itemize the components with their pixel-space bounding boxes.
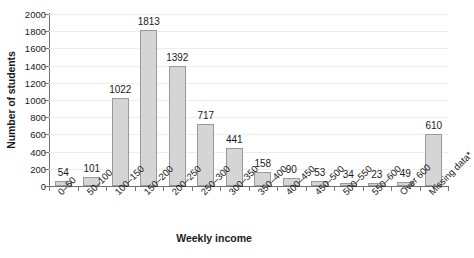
x-axis-title: Weekly income: [49, 232, 379, 244]
bar-series: 541011022181313927174411589053342349610: [49, 14, 448, 186]
bar-value-label: 1022: [100, 85, 140, 95]
bar-value-label: 610: [414, 121, 454, 131]
bar: [112, 98, 129, 186]
bar-value-label: 717: [186, 111, 226, 121]
bar: [140, 30, 157, 186]
y-axis-tick-label: 1400: [22, 61, 46, 70]
bar-value-label: 1392: [157, 53, 197, 63]
y-axis-tick-label: 1200: [22, 78, 46, 87]
plot-area: 541011022181313927174411589053342349610: [49, 14, 448, 186]
y-axis-tick-label: 1600: [22, 44, 46, 53]
y-axis-tick-label: 0: [22, 182, 46, 191]
y-axis-title: Number of students: [0, 14, 22, 186]
y-axis-tick-label: 2000: [22, 10, 46, 19]
y-axis-title-label: Number of students: [5, 51, 17, 148]
bar-value-label: 441: [214, 135, 254, 145]
y-axis-tick-label: 400: [22, 147, 46, 156]
y-axis-tick-label: 800: [22, 113, 46, 122]
y-axis-tick-label: 1000: [22, 96, 46, 105]
y-axis-tick-label: 600: [22, 130, 46, 139]
y-axis-tick-labels: 0200400600800100012001400160018002000: [22, 14, 46, 186]
bar-value-label: 1813: [129, 17, 169, 27]
y-axis-tick-label: 1800: [22, 27, 46, 36]
